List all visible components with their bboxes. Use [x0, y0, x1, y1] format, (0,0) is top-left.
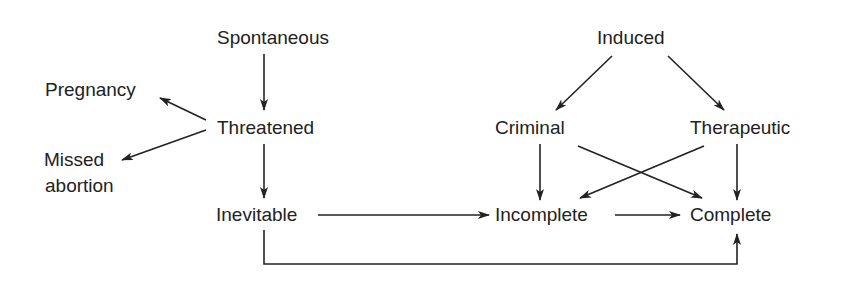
edge-inevitable-complete: [264, 230, 737, 264]
edges-layer: [0, 0, 842, 291]
edge-threatened-pregnancy: [160, 98, 206, 120]
edge-induced-therapeutic: [668, 56, 724, 110]
node-complete: Complete: [690, 205, 771, 225]
node-missed-abortion-line2: abortion: [45, 176, 114, 196]
edge-induced-criminal: [556, 56, 612, 110]
node-pregnancy: Pregnancy: [45, 80, 136, 100]
node-inevitable: Inevitable: [216, 205, 297, 225]
edge-threatened-missed: [122, 130, 206, 160]
node-threatened: Threatened: [217, 118, 314, 138]
node-spontaneous: Spontaneous: [217, 28, 329, 48]
node-incomplete: Incomplete: [495, 205, 588, 225]
node-criminal: Criminal: [495, 118, 565, 138]
node-induced: Induced: [597, 28, 665, 48]
node-missed-abortion-line1: Missed: [44, 150, 104, 170]
node-therapeutic: Therapeutic: [690, 118, 790, 138]
